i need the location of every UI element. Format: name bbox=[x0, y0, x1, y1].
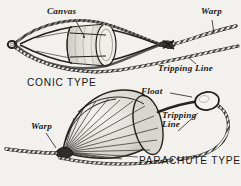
figure-canvas: Canvas Warp Tripping Line CONIC TYPE Flo… bbox=[0, 0, 241, 186]
parachute-warp-rope bbox=[6, 149, 56, 153]
bridle-apex bbox=[56, 147, 73, 158]
parachute-tripping-line-lower bbox=[60, 158, 172, 164]
splice-knot bbox=[158, 41, 174, 50]
conic-net-icon bbox=[8, 20, 238, 72]
parachute-tripping-line-loop bbox=[158, 101, 228, 159]
canvas-dot bbox=[83, 36, 85, 38]
canvas-band bbox=[67, 24, 116, 66]
oval-float-icon bbox=[194, 90, 220, 111]
parachute-canopy-icon bbox=[6, 90, 228, 164]
conic-warp-rope bbox=[174, 26, 236, 44]
diagram-artwork bbox=[0, 0, 241, 186]
